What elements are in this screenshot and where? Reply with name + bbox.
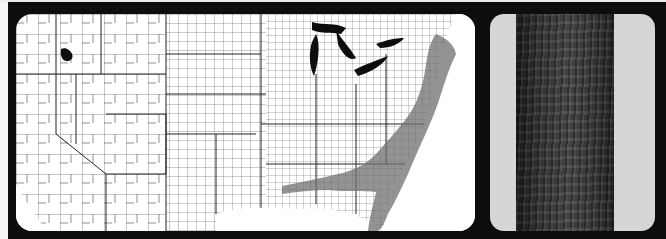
top-margin: [0, 0, 666, 2]
bark-photo-panel: [490, 14, 655, 231]
us-county-map: [16, 14, 475, 231]
western-counties: [16, 14, 166, 231]
left-margin: [0, 0, 8, 239]
tree-trunk-image: [516, 14, 614, 231]
distribution-map-panel: [16, 14, 475, 231]
